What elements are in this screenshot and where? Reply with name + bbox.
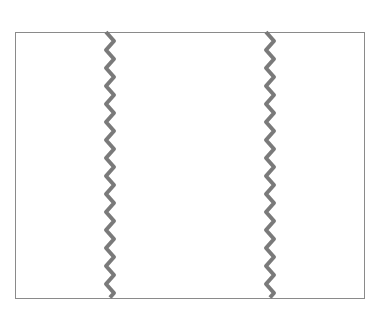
right-break-line [266,32,274,298]
left-break-line [106,32,114,298]
break-lines [0,0,376,320]
